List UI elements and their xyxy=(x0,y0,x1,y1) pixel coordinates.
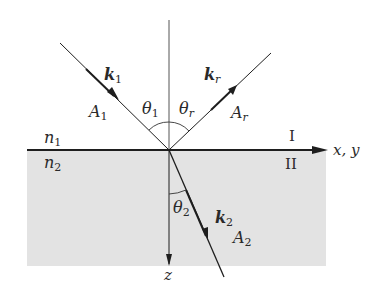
label-theta1: θ1 xyxy=(142,99,159,120)
thetar-arc xyxy=(169,122,189,131)
label-region-II: II xyxy=(285,155,297,173)
label-axis-z: z xyxy=(163,266,172,284)
theta1-arc xyxy=(149,122,169,130)
label-A1: A1 xyxy=(87,102,108,123)
label-region-I: I xyxy=(289,127,295,145)
label-k1: k1 xyxy=(104,65,122,86)
label-kr: kr xyxy=(204,65,221,86)
label-thetar: θr xyxy=(179,99,195,120)
label-Ar: Ar xyxy=(229,103,249,124)
label-axis-xy: x, y xyxy=(333,141,360,159)
label-n1: n1 xyxy=(44,128,61,149)
incident-arrowhead-icon xyxy=(107,87,119,100)
refraction-diagram: k1 A1 θ1 θr kr Ar n1 n2 I II x, y θ2 k2 … xyxy=(0,0,387,301)
